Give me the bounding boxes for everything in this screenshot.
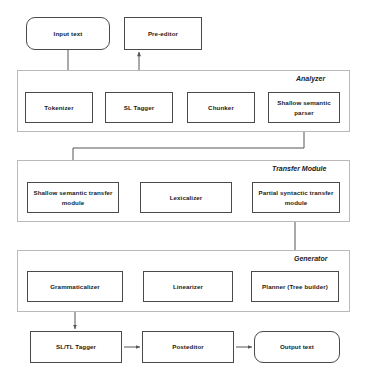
node-grammaticalizer[interactable]: Grammaticalizer [27, 271, 123, 302]
group-transfer-module-label: Transfer Module [272, 165, 326, 172]
node-posteditor[interactable]: Posteditor [142, 331, 234, 363]
architecture-diagram: Analyzer Transfer Module Generator Input… [0, 0, 368, 377]
node-sl-tl-tagger[interactable]: SL/TL Tagger [30, 331, 122, 363]
node-linearizer-label: Linearizer [171, 282, 205, 292]
node-shallow-semantic-parser[interactable]: Shallow semantic parser [268, 92, 340, 123]
node-shallow-semantic-parser-label: Shallow semantic parser [269, 98, 339, 117]
node-output-text-label: Output text [278, 342, 316, 352]
node-partial-syntactic-transfer-module-label: Partial syntactic transfer module [253, 188, 339, 207]
node-sl-tl-tagger-label: SL/TL Tagger [54, 342, 98, 352]
node-sl-tagger[interactable]: SL Tagger [105, 92, 173, 123]
node-chunker[interactable]: Chunker [187, 92, 255, 123]
node-planner[interactable]: Planner (Tree builder) [251, 271, 339, 302]
group-generator-label: Generator [294, 255, 327, 262]
node-lexicalizer-label: Lexicalizer [168, 193, 205, 203]
node-chunker-label: Chunker [206, 103, 236, 113]
node-tokenizer-label: Tokenizer [42, 103, 75, 113]
node-lexicalizer[interactable]: Lexicalizer [140, 182, 232, 213]
node-tokenizer[interactable]: Tokenizer [25, 92, 93, 123]
group-analyzer-label: Analyzer [296, 75, 325, 82]
node-pre-editor-label: Pre-editor [146, 29, 180, 39]
node-input-text-label: Input text [52, 29, 85, 39]
node-input-text[interactable]: Input text [26, 17, 110, 50]
node-partial-syntactic-transfer-module[interactable]: Partial syntactic transfer module [252, 182, 340, 213]
node-pre-editor[interactable]: Pre-editor [124, 17, 202, 50]
node-sl-tagger-label: SL Tagger [122, 103, 157, 113]
node-shallow-semantic-transfer-module[interactable]: Shallow semantic transfer module [27, 182, 119, 213]
node-linearizer[interactable]: Linearizer [143, 271, 233, 302]
node-grammaticalizer-label: Grammaticalizer [48, 282, 102, 292]
node-shallow-semantic-transfer-module-label: Shallow semantic transfer module [28, 188, 118, 207]
node-planner-label: Planner (Tree builder) [260, 282, 330, 292]
node-output-text[interactable]: Output text [254, 331, 340, 363]
node-posteditor-label: Posteditor [170, 342, 206, 352]
